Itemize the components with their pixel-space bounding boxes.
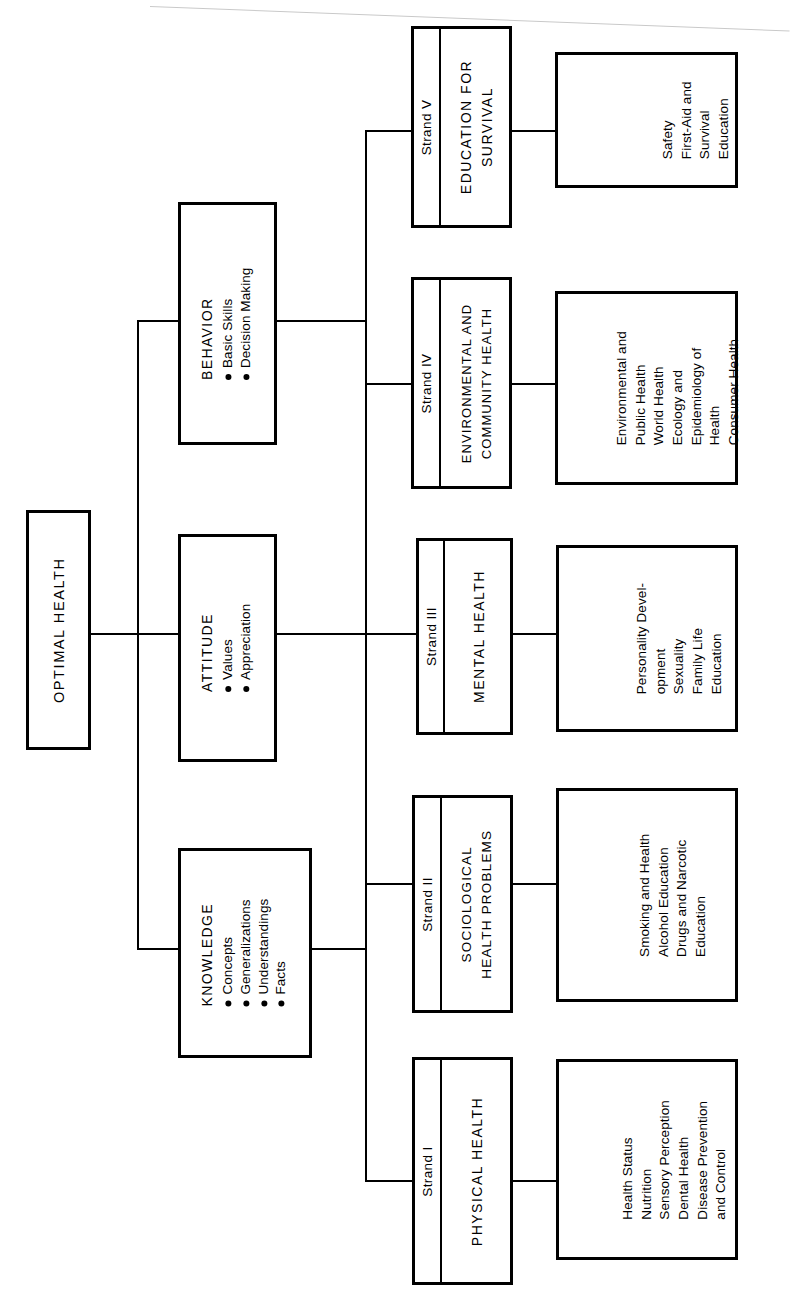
connector-strand-v-to-topics <box>512 130 556 132</box>
strand-ii-number: Strand II <box>420 877 435 932</box>
strand-iv-number: Strand IV <box>419 353 434 413</box>
strand-v-number: Strand V <box>419 99 434 155</box>
connector-spine-to-strand-i <box>365 1180 412 1182</box>
knowledge-item: Concepts <box>219 937 237 1007</box>
bullet-dot-icon <box>243 374 249 380</box>
bullet-dot-icon <box>279 1001 285 1007</box>
connector-knowledge-to-strand-spine <box>312 948 366 950</box>
bullet-dot-icon <box>226 686 232 692</box>
strand-i-topic-list: Health Status Nutrition Sensory Percepti… <box>619 1100 731 1220</box>
strand-ii-topic-list: Smoking and Health Alcohol Education Dru… <box>636 833 711 956</box>
strand-i-number: Strand I <box>420 1146 435 1196</box>
connector-behavior-to-strand-spine <box>277 320 366 322</box>
connector-strand-iv-to-topics <box>512 383 556 385</box>
strand-i-title: PHYSICAL HEALTH <box>468 1096 489 1245</box>
bullet-dot-icon <box>225 1001 231 1007</box>
node-strand-i-topics[interactable]: Health Status Nutrition Sensory Percepti… <box>556 1059 738 1260</box>
strand-v-topic-list: Safety First-Aid and Survival Education <box>659 81 734 159</box>
node-strand-iii-topics[interactable]: Personality Devel- opment Sexuality Fami… <box>556 545 738 732</box>
knowledge-item: Understandings <box>255 899 273 1007</box>
node-strand-iii[interactable]: Strand III MENTAL HEALTH <box>416 538 513 735</box>
strand-iii-topic-list: Personality Devel- opment Sexuality Fami… <box>633 583 726 694</box>
bullet-dot-icon <box>243 686 249 692</box>
strand-iii-title: MENTAL HEALTH <box>469 570 490 703</box>
connector-spine-to-attitude <box>137 633 179 635</box>
strand-iii-number: Strand III <box>424 607 439 666</box>
node-strand-ii-topics[interactable]: Smoking and Health Alcohol Education Dru… <box>556 788 738 1002</box>
optimal-health-label: OPTIMAL HEALTH <box>47 557 69 703</box>
knowledge-item: Facts <box>273 961 291 1007</box>
connector-strand-i-to-topics <box>513 1180 557 1182</box>
connector-attitude-to-strand-spine <box>277 633 366 635</box>
connector-strand-ii-to-topics <box>513 883 557 885</box>
bullet-dot-icon <box>226 374 232 380</box>
connector-domain-spine <box>137 320 139 950</box>
attitude-title: ATTITUDE <box>200 614 216 693</box>
node-strand-ii[interactable]: Strand II SOCIOLOGICAL HEALTH PROBLEMS <box>412 795 513 1013</box>
strand-iv-title: ENVIRONMENTAL AND COMMUNITY HEALTH <box>458 303 497 463</box>
node-strand-v-topics[interactable]: Safety First-Aid and Survival Education <box>555 52 738 188</box>
connector-spine-to-strand-iii <box>365 633 416 635</box>
connector-spine-to-strand-iv <box>365 383 412 385</box>
behavior-title: BEHAVIOR <box>200 297 216 380</box>
node-strand-v[interactable]: Strand V EDUCATION FOR SURVIVAL <box>411 26 512 228</box>
connector-strand-iii-to-topics <box>513 633 557 635</box>
node-strand-iv[interactable]: Strand IV ENVIRONMENTAL AND COMMUNITY HE… <box>411 277 512 489</box>
connector-spine-to-strand-v <box>365 130 412 132</box>
connector-spine-to-strand-ii <box>365 883 412 885</box>
node-strand-iv-topics[interactable]: Environmental and Public Health World He… <box>555 291 738 485</box>
strand-iv-topic-list: Environmental and Public Health World He… <box>613 331 743 445</box>
node-attitude[interactable]: ATTITUDE Values Appreciation <box>178 534 277 762</box>
attitude-item: Appreciation <box>238 604 256 692</box>
connector-strand-spine <box>365 130 367 1182</box>
knowledge-title: KNOWLEDGE <box>199 903 215 1007</box>
knowledge-item: Generalizations <box>237 900 255 1007</box>
node-behavior[interactable]: BEHAVIOR Basic Skills Decision Making <box>178 202 277 445</box>
node-knowledge[interactable]: KNOWLEDGE Concepts Generalizations Under… <box>178 848 312 1058</box>
behavior-item: Basic Skills <box>220 298 238 379</box>
connector-spine-to-behavior <box>137 320 179 322</box>
behavior-item: Decision Making <box>238 267 256 380</box>
bullet-dot-icon <box>261 1001 267 1007</box>
attitude-item: Values <box>220 639 238 692</box>
strand-v-title: EDUCATION FOR SURVIVAL <box>456 60 498 194</box>
connector-spine-to-knowledge <box>137 948 179 950</box>
node-optimal-health[interactable]: OPTIMAL HEALTH <box>26 510 91 750</box>
bullet-dot-icon <box>243 1001 249 1007</box>
node-strand-i[interactable]: Strand I PHYSICAL HEALTH <box>412 1057 513 1285</box>
connector-root-stem <box>91 633 138 635</box>
strand-ii-title: SOCIOLOGICAL HEALTH PROBLEMS <box>458 829 499 978</box>
